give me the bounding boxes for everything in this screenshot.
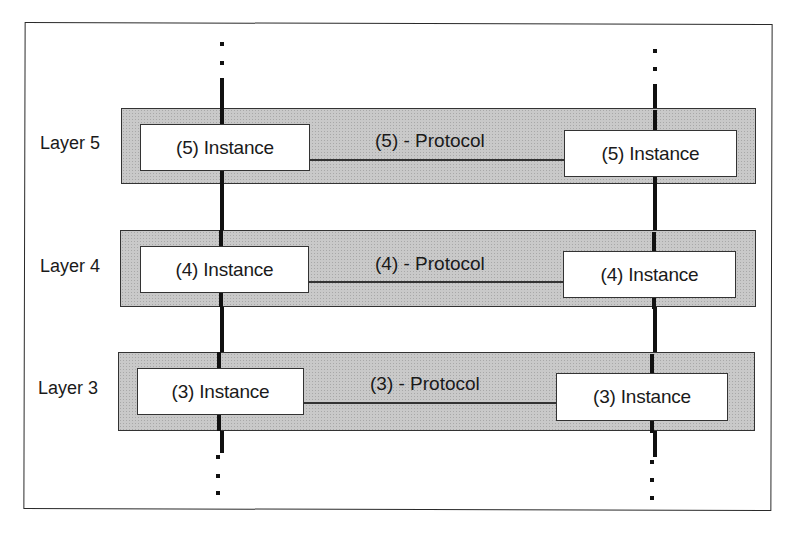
continuation-dot-right-top-1 [653, 49, 657, 53]
continuation-dot-left-bottom-2 [216, 474, 220, 478]
layer-4-protocol-line [308, 281, 566, 283]
layer-4-label: Layer 4 [40, 256, 100, 277]
layer-5-label: Layer 5 [40, 133, 100, 154]
layer-4-left-instance: (4) Instance [140, 246, 309, 293]
layer-3-right-instance: (3) Instance [556, 373, 728, 421]
continuation-dot-left-bottom-1 [216, 455, 220, 459]
continuation-dot-left-bottom-3 [216, 491, 220, 495]
layer-3-protocol-label: (3) - Protocol [370, 373, 480, 395]
continuation-dot-right-bottom-2 [650, 478, 654, 482]
layer-5-protocol-line [308, 159, 566, 161]
layer-5-left-instance: (5) Instance [140, 124, 310, 171]
continuation-dot-right-bottom-3 [650, 496, 654, 500]
layer-3-protocol-line [303, 402, 558, 404]
layer-5-protocol-label: (5) - Protocol [375, 130, 485, 152]
layer-4-right-instance: (4) Instance [563, 251, 736, 298]
layer-5-right-instance: (5) Instance [564, 130, 737, 177]
layer-3-left-instance: (3) Instance [137, 368, 304, 415]
continuation-dot-left-top-2 [220, 61, 224, 65]
continuation-dot-left-top-1 [220, 42, 224, 46]
layer-3-label: Layer 3 [38, 378, 98, 399]
layer-4-protocol-label: (4) - Protocol [375, 253, 485, 275]
continuation-dot-right-top-2 [653, 67, 657, 71]
continuation-dot-right-bottom-1 [650, 460, 654, 464]
